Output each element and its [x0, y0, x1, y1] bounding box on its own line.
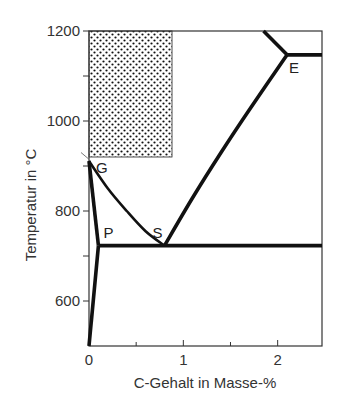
line-p-solvus	[89, 246, 98, 346]
phase-diagram: 60080010001200012 GPSE C-Gehalt in Masse…	[0, 0, 341, 411]
y-tick-label: 1000	[47, 112, 80, 129]
dotted-region-rect	[89, 31, 172, 157]
point-label-e: E	[289, 59, 299, 76]
y-tick-label: 1200	[47, 22, 80, 39]
line-se	[164, 55, 287, 246]
x-tick-label: 2	[273, 351, 281, 368]
y-axis-title: Temperatur in °C	[22, 148, 39, 261]
line-liquidus	[264, 31, 288, 55]
y-tick-label: 600	[55, 292, 80, 309]
y-tick-label: 800	[55, 202, 80, 219]
point-label-g: G	[96, 159, 108, 176]
g-marker-tick	[81, 153, 89, 160]
x-tick-label: 0	[85, 351, 93, 368]
dotted-region	[89, 31, 172, 157]
x-tick-label: 1	[179, 351, 187, 368]
point-label-s: S	[152, 224, 162, 241]
x-axis-title: C-Gehalt in Masse-%	[134, 374, 277, 391]
point-label-p: P	[103, 224, 113, 241]
